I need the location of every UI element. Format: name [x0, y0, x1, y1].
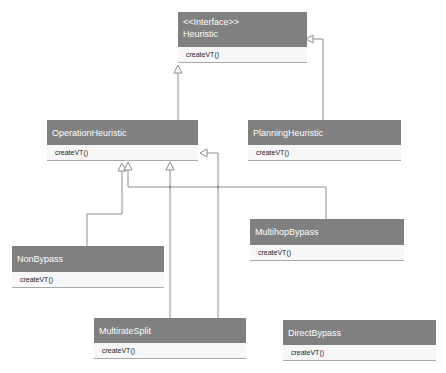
class-heuristic[interactable]: <<Interface>> Heuristic createVT() [178, 12, 307, 63]
class-header: MultihopBypass [250, 219, 404, 245]
class-name: Heuristic [183, 28, 302, 40]
class-multihop-bypass[interactable]: MultihopBypass createVT() [250, 219, 404, 261]
class-name: DirectBypass [288, 327, 431, 339]
arrowhead [306, 35, 313, 43]
class-name: MultihopBypass [255, 226, 399, 238]
arrowhead [174, 65, 182, 73]
class-operation-heuristic[interactable]: OperationHeuristic createVT() [47, 120, 198, 161]
class-header: PlanningHeuristic [248, 120, 401, 145]
operation-createVT: createVT() [94, 343, 246, 359]
arrowhead [118, 163, 126, 171]
operation-createVT: createVT() [178, 47, 307, 63]
class-planning-heuristic[interactable]: PlanningHeuristic createVT() [248, 120, 401, 161]
class-name: MultirateSplit [99, 325, 241, 337]
class-name: OperationHeuristic [52, 127, 193, 139]
class-header: OperationHeuristic [47, 120, 198, 145]
class-direct-bypass[interactable]: DirectBypass createVT() [283, 320, 436, 361]
operation-createVT: createVT() [47, 145, 198, 161]
class-name: NonBypass [17, 253, 159, 265]
operation-createVT: createVT() [250, 245, 404, 261]
class-header: NonBypass [12, 246, 164, 272]
arrowhead [124, 162, 132, 170]
class-name: PlanningHeuristic [253, 127, 396, 139]
operation-createVT: createVT() [248, 145, 401, 161]
class-header: <<Interface>> Heuristic [178, 12, 307, 47]
arrowhead [200, 149, 207, 157]
stereotype-label: <<Interface>> [183, 16, 302, 28]
class-nonbypass[interactable]: NonBypass createVT() [12, 246, 164, 288]
class-header: MultirateSplit [94, 318, 246, 343]
operation-createVT: createVT() [283, 345, 436, 361]
class-header: DirectBypass [283, 320, 436, 345]
arrowhead [166, 162, 174, 170]
class-multirate-split[interactable]: MultirateSplit createVT() [94, 318, 246, 359]
operation-createVT: createVT() [12, 272, 164, 288]
